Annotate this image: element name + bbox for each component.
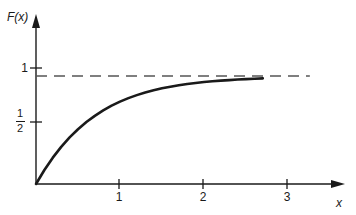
y-axis-label: F(x) [7, 11, 28, 23]
y-axis-arrow-icon [32, 14, 40, 28]
fraction-numerator: 1 [13, 108, 27, 120]
x-axis-label: x [336, 197, 342, 209]
chart-figure: F(x) x 1 2 3 1 1 2 [0, 0, 356, 215]
x-axis-arrow-icon [331, 180, 345, 188]
y-tick-label-one: 1 [15, 62, 28, 74]
x-tick-label-3: 3 [278, 191, 296, 203]
x-tick-label-2: 2 [194, 191, 212, 203]
cdf-curve [36, 78, 263, 184]
x-tick-label-1: 1 [110, 191, 128, 203]
plot-canvas [0, 0, 356, 215]
y-tick-label-half: 1 2 [13, 108, 27, 134]
fraction-denominator: 2 [13, 123, 27, 135]
